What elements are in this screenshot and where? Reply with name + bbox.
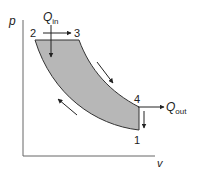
point-4-label: 4 — [134, 93, 140, 105]
q-in-symbol: Qin — [43, 10, 59, 26]
pv-diagram: p v Qin 2 3 4 1 Qout — [0, 0, 197, 172]
x-axis-label: v — [157, 157, 164, 169]
y-axis-label: p — [8, 14, 16, 28]
point-1-label: 1 — [134, 134, 140, 146]
point-3-label: 3 — [74, 27, 80, 39]
point-2-label: 2 — [30, 27, 36, 39]
q-out-symbol: Qout — [166, 100, 187, 116]
